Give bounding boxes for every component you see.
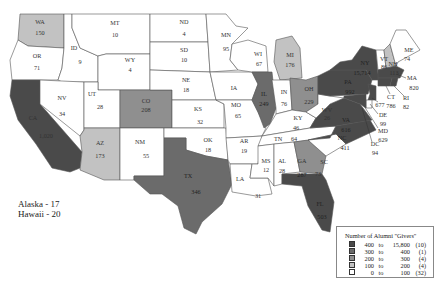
svg-text:LA: LA bbox=[236, 175, 245, 182]
svg-text:992: 992 bbox=[345, 88, 354, 95]
svg-text:MD: MD bbox=[378, 127, 389, 134]
svg-text:WA: WA bbox=[35, 18, 45, 25]
svg-text:CA: CA bbox=[29, 114, 38, 121]
svg-text:67: 67 bbox=[256, 60, 262, 67]
svg-text:76: 76 bbox=[281, 100, 287, 107]
svg-text:SC: SC bbox=[320, 158, 328, 165]
svg-text:NV: NV bbox=[58, 94, 67, 101]
svg-text:12: 12 bbox=[263, 166, 269, 173]
svg-text:10: 10 bbox=[181, 56, 187, 63]
svg-text:WY: WY bbox=[125, 56, 136, 63]
alaska-count: Alaska - 17 bbox=[18, 199, 61, 209]
svg-text:55: 55 bbox=[143, 152, 149, 159]
svg-text:150: 150 bbox=[35, 29, 44, 36]
svg-text:176: 176 bbox=[285, 61, 294, 68]
svg-text:229: 229 bbox=[304, 98, 313, 105]
legend-row: 0 to 100 (32) bbox=[349, 268, 426, 276]
hawaii-count: Hawaii - 20 bbox=[18, 209, 61, 219]
svg-text:10: 10 bbox=[112, 31, 118, 38]
svg-text:UT: UT bbox=[88, 90, 96, 97]
svg-text:FL: FL bbox=[316, 200, 323, 207]
svg-text:WV: WV bbox=[322, 106, 333, 113]
svg-text:411: 411 bbox=[340, 144, 349, 151]
svg-text:19: 19 bbox=[241, 147, 247, 154]
state-NJ bbox=[368, 84, 376, 100]
svg-text:99: 99 bbox=[380, 120, 386, 127]
svg-text:73: 73 bbox=[315, 170, 321, 177]
svg-text:ND: ND bbox=[180, 18, 189, 25]
map-legend: Number of Alumni "Givers" 400 to 15,800 … bbox=[336, 226, 434, 278]
svg-text:MN: MN bbox=[221, 31, 232, 38]
svg-text:173: 173 bbox=[95, 152, 104, 159]
svg-text:NY: NY bbox=[361, 59, 370, 66]
svg-text:MI: MI bbox=[286, 51, 294, 58]
svg-text:AZ: AZ bbox=[96, 139, 104, 146]
svg-text:208: 208 bbox=[141, 106, 150, 113]
svg-text:NE: NE bbox=[182, 76, 190, 83]
svg-text:820: 820 bbox=[409, 84, 418, 91]
svg-text:9: 9 bbox=[78, 58, 81, 65]
legend-swatch bbox=[349, 269, 355, 275]
svg-text:287: 287 bbox=[297, 171, 306, 178]
svg-text:CO: CO bbox=[142, 97, 151, 104]
svg-text:SD: SD bbox=[180, 46, 188, 53]
state-WI bbox=[230, 40, 268, 72]
svg-text:AL: AL bbox=[278, 157, 286, 164]
svg-text:249: 249 bbox=[259, 100, 268, 107]
svg-text:46: 46 bbox=[293, 124, 299, 131]
svg-text:677: 677 bbox=[375, 101, 384, 108]
svg-text:KS: KS bbox=[194, 105, 202, 112]
svg-text:4: 4 bbox=[128, 66, 131, 73]
svg-text:113: 113 bbox=[389, 69, 398, 76]
svg-text:AR: AR bbox=[240, 137, 249, 144]
svg-text:IA: IA bbox=[231, 84, 238, 91]
svg-text:MT: MT bbox=[110, 19, 120, 26]
svg-text:786: 786 bbox=[386, 102, 395, 109]
svg-text:MO: MO bbox=[231, 101, 242, 108]
svg-text:OK: OK bbox=[204, 136, 213, 143]
svg-text:IN: IN bbox=[281, 88, 288, 95]
svg-text:PA: PA bbox=[344, 78, 352, 85]
svg-text:26: 26 bbox=[324, 114, 330, 121]
svg-text:ID: ID bbox=[71, 44, 78, 51]
svg-text:DE: DE bbox=[379, 111, 387, 118]
svg-text:616: 616 bbox=[341, 126, 350, 133]
svg-text:503: 503 bbox=[317, 213, 326, 220]
svg-text:MS: MS bbox=[262, 157, 272, 164]
svg-text:82: 82 bbox=[403, 103, 409, 110]
legend-title: Number of Alumni "Givers" bbox=[345, 232, 416, 239]
svg-text:OH: OH bbox=[305, 85, 314, 92]
state-CT bbox=[378, 78, 392, 86]
svg-text:64: 64 bbox=[291, 135, 297, 142]
svg-text:VT: VT bbox=[380, 55, 388, 62]
svg-text:95: 95 bbox=[223, 45, 229, 52]
svg-text:31: 31 bbox=[255, 192, 261, 199]
state-MI bbox=[274, 36, 302, 80]
svg-text:346: 346 bbox=[191, 188, 200, 195]
svg-text:629: 629 bbox=[378, 136, 387, 143]
svg-text:IL: IL bbox=[261, 90, 267, 97]
svg-text:28: 28 bbox=[97, 103, 103, 110]
svg-text:65: 65 bbox=[235, 112, 241, 119]
svg-text:18: 18 bbox=[183, 86, 189, 93]
svg-text:MA: MA bbox=[407, 74, 418, 81]
svg-text:32: 32 bbox=[197, 118, 203, 125]
svg-text:ME: ME bbox=[404, 46, 414, 53]
svg-text:NC: NC bbox=[338, 134, 347, 141]
svg-text:34: 34 bbox=[59, 110, 65, 117]
svg-text:WI: WI bbox=[254, 50, 262, 57]
svg-text:15,714: 15,714 bbox=[353, 69, 370, 76]
svg-text:TX: TX bbox=[184, 172, 193, 179]
svg-text:GA: GA bbox=[298, 157, 307, 164]
svg-text:NM: NM bbox=[135, 138, 145, 145]
state-DE bbox=[366, 100, 372, 108]
svg-text:TN: TN bbox=[274, 135, 283, 142]
svg-text:DC: DC bbox=[371, 140, 380, 147]
svg-text:RI: RI bbox=[403, 94, 409, 101]
svg-text:VA: VA bbox=[342, 116, 351, 123]
svg-text:KY: KY bbox=[294, 114, 303, 121]
svg-text:71: 71 bbox=[34, 64, 40, 71]
svg-text:4: 4 bbox=[182, 30, 185, 37]
svg-text:28: 28 bbox=[279, 167, 285, 174]
svg-text:NH: NH bbox=[389, 60, 398, 67]
